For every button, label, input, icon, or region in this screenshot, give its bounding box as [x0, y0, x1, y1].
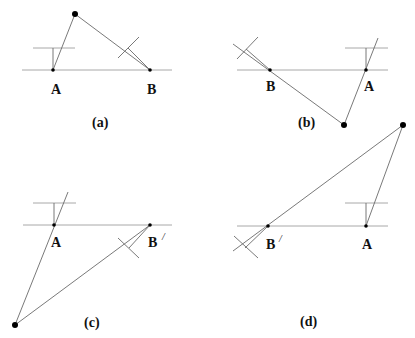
- point-p: [400, 122, 406, 128]
- caption-b: (b): [298, 115, 315, 131]
- sight-line: [128, 48, 150, 70]
- point-a: [364, 224, 368, 228]
- panel-c: A B / (c): [12, 192, 172, 331]
- label-b-prime: B: [148, 235, 157, 250]
- panel-a: A B (a): [22, 11, 172, 131]
- label-b-prime: B: [266, 237, 275, 252]
- cross-tick: [237, 37, 258, 59]
- label-a: A: [51, 235, 62, 250]
- ray-p-to-b: [233, 125, 403, 251]
- ray-p-to-b: [233, 44, 344, 125]
- label-a: A: [51, 82, 62, 97]
- caption-d: (d): [300, 314, 317, 330]
- prime-mark: /: [161, 231, 166, 242]
- point-p: [341, 122, 347, 128]
- ray-p-to-a: [366, 125, 403, 226]
- point-p: [72, 11, 78, 17]
- caption-a: (a): [92, 115, 109, 131]
- panel-b: B A (b): [233, 37, 388, 131]
- ray-a-to-p: [53, 14, 75, 70]
- label-a: A: [364, 79, 375, 94]
- caption-c: (c): [84, 315, 100, 331]
- panel-d: B / A (d): [233, 122, 406, 330]
- point-a: [51, 68, 55, 72]
- point-b-prime: [266, 224, 270, 228]
- point-b: [148, 68, 152, 72]
- label-b: B: [147, 82, 156, 97]
- ray-p-to-b: [75, 14, 150, 70]
- label-a: A: [362, 237, 373, 252]
- point-b: [268, 68, 272, 72]
- sight-line: [245, 226, 268, 248]
- sight-line: [246, 49, 270, 70]
- label-b: B: [266, 79, 275, 94]
- point-p: [12, 322, 18, 328]
- point-a: [52, 223, 56, 227]
- prime-mark: /: [278, 233, 283, 244]
- point-b-prime: [148, 223, 152, 227]
- point-a: [364, 68, 368, 72]
- cross-tick: [118, 37, 139, 58]
- geometry-diagram: A B (a) B A (b) A B / (c): [0, 0, 415, 338]
- sight-line: [129, 225, 150, 248]
